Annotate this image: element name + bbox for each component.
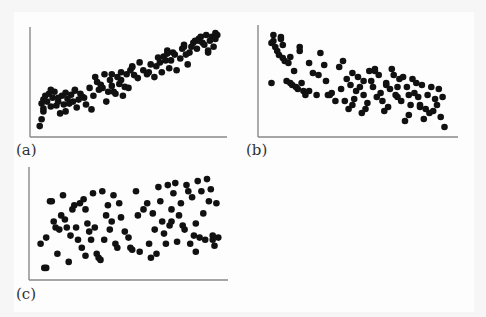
data-point [428,84,435,91]
data-point [107,77,114,84]
data-point [83,101,90,108]
data-point [118,214,125,221]
data-point [185,188,192,195]
data-point [209,236,216,243]
panel-label-c: (c) [16,287,36,302]
data-point [390,72,397,79]
data-point [177,55,184,62]
data-point [368,78,375,85]
data-point [183,182,190,189]
data-point [103,212,110,219]
data-point [186,49,193,56]
data-point [159,218,166,225]
data-point [168,206,175,213]
data-point [342,98,349,105]
data-point [347,82,354,89]
data-point [437,114,444,121]
panel-c [29,167,228,280]
data-point [148,255,155,262]
data-point [406,112,413,119]
data-point [136,249,143,256]
data-point [48,87,55,94]
data-point [377,90,384,97]
data-point [64,224,71,231]
data-point [97,257,104,264]
data-point [135,75,142,82]
data-point [194,178,201,185]
data-point [159,69,166,76]
data-point [394,94,401,101]
data-point [109,83,116,90]
scatter-plot-a [30,27,227,137]
data-point [327,92,334,99]
data-point [84,220,91,227]
data-point [349,102,356,109]
data-point [82,206,89,213]
data-point [383,82,390,89]
data-point [163,240,170,247]
data-point [105,202,112,209]
data-point [208,186,215,193]
data-point [385,104,392,111]
data-point [71,202,78,209]
data-point [88,236,95,243]
data-point [194,45,201,52]
data-point [338,86,345,93]
data-point [82,253,89,260]
data-point [112,91,119,98]
data-point [107,226,114,233]
panel-a [30,27,227,137]
data-point [336,64,343,71]
data-point [441,124,448,131]
data-point [203,32,210,39]
data-point [287,54,294,61]
data-point [50,218,57,225]
data-point [181,43,188,50]
scatter-plot-c [29,167,228,280]
data-point [127,244,134,251]
data-point [204,176,211,183]
data-point [72,87,79,94]
data-point [176,212,183,219]
data-point [136,59,143,66]
data-point [140,206,147,213]
data-point [372,66,379,73]
data-point [151,226,158,233]
data-point [355,74,362,81]
data-point [109,71,116,78]
data-point [80,196,87,203]
data-point [296,44,303,51]
data-point [191,232,198,239]
data-point [49,198,56,205]
data-point [436,86,443,93]
scatter-plot-b [258,25,458,137]
data-point [165,182,172,189]
data-point [206,198,213,205]
data-point [75,236,82,243]
data-point [178,200,185,207]
data-point [181,226,188,233]
data-point [157,59,164,66]
data-point [202,236,209,243]
data-point [62,216,69,223]
data-point [434,102,441,109]
data-point [406,92,413,99]
data-point [357,84,364,91]
data-point [278,36,285,43]
data-point [114,244,121,251]
data-point [38,116,45,123]
panel-label-a: (a) [16,143,37,158]
data-point [146,69,153,76]
data-point [168,57,175,64]
data-point [343,76,350,83]
data-point [103,98,110,105]
data-point [201,42,208,49]
data-point [415,94,422,101]
data-point [364,100,371,107]
data-point [173,67,180,74]
data-point [370,84,377,91]
data-point [306,88,313,95]
data-point [122,228,129,235]
data-point [189,194,196,201]
data-point [81,94,88,101]
